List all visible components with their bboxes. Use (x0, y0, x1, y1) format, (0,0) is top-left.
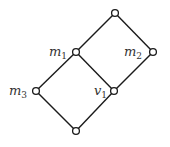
label-m2: m2 (124, 44, 142, 61)
edge-top-m1 (76, 13, 115, 52)
label-m3: m3 (9, 83, 27, 100)
nodes (33, 10, 157, 135)
node-v1 (111, 88, 118, 95)
label-v1: v1 (94, 83, 107, 100)
node-top (112, 10, 119, 17)
node-bottom (73, 128, 80, 135)
label-m1: m1 (49, 44, 67, 61)
edges (36, 13, 153, 131)
hasse-diagram: m1 m2 m3 v1 (0, 0, 170, 147)
node-m3 (33, 88, 40, 95)
edge-m3-bottom (36, 91, 76, 131)
node-m1 (73, 49, 80, 56)
node-m2 (150, 49, 157, 56)
